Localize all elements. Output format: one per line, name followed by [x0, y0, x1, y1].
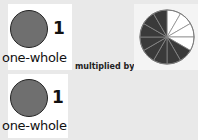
whole-number: 1 [53, 18, 65, 38]
whole-label: one-whole [2, 118, 67, 133]
top-whole-panel: 1 one-whole [8, 4, 72, 70]
whole-label: one-whole [2, 50, 67, 65]
whole-number: 1 [52, 87, 64, 107]
whole-circle-icon [10, 79, 48, 117]
bottom-whole-panel: 1 one-whole [8, 74, 68, 138]
whole-circle-icon [10, 10, 48, 48]
fraction-pie-icon [138, 8, 196, 66]
operator-label: multiplied by [75, 62, 134, 71]
